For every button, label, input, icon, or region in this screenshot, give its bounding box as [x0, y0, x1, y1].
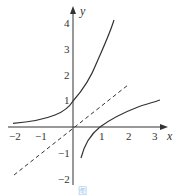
y-axis-arrow-icon — [70, 6, 76, 14]
y-tick-4: 4 — [64, 17, 70, 29]
y-tick-3: 3 — [64, 43, 70, 55]
x-tick-minus-2: −2 — [9, 130, 21, 142]
identity-dashed-line — [14, 85, 128, 175]
x-tick-3: 3 — [152, 130, 158, 142]
x-tick-1: 1 — [99, 130, 105, 142]
x-tick-2: 2 — [126, 130, 132, 142]
logarithm-curve — [81, 100, 160, 158]
x-tick-minus-1: −1 — [35, 130, 47, 142]
y-tick-minus-1: −1 — [58, 147, 70, 159]
x-axis-label: x — [166, 129, 173, 143]
function-graph: x y −2 −1 1 2 3 4 3 2 1 −1 −2 图 — [0, 0, 177, 196]
figure-caption: 图 — [78, 186, 87, 196]
y-tick-1: 1 — [64, 94, 70, 106]
y-tick-minus-2: −2 — [58, 173, 70, 185]
y-axis-label: y — [79, 4, 86, 18]
y-tick-2: 2 — [64, 69, 70, 81]
